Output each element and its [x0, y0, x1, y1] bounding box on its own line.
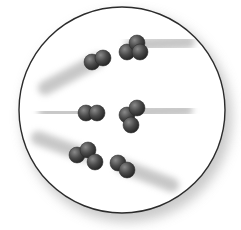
molecules-in-container-diagram [0, 0, 241, 230]
atom-icon [129, 100, 145, 116]
atom-icon [89, 105, 105, 121]
molecule-diatomic-m3 [78, 105, 105, 121]
atom-icon [119, 162, 135, 178]
atom-icon [123, 117, 139, 133]
atom-icon [95, 50, 111, 66]
atom-icon [87, 154, 103, 170]
atom-icon [132, 44, 148, 60]
diagram-stage [0, 0, 241, 230]
